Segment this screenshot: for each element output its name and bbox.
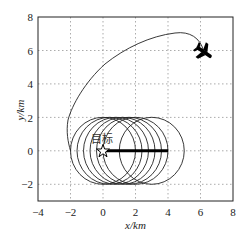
x-axis-label: x/km: [124, 219, 146, 231]
x-tick: −2: [65, 206, 77, 218]
y-tick: 4: [28, 78, 34, 90]
x-tick: −4: [32, 206, 44, 218]
y-tick: −2: [21, 178, 33, 190]
aircraft-icon: [191, 39, 217, 65]
y-axis-label: y/km: [14, 100, 26, 122]
y-tick: 8: [28, 11, 34, 23]
x-tick: 4: [165, 206, 171, 218]
target-annotation: 目标: [91, 132, 113, 146]
x-tick: 0: [100, 206, 106, 218]
y-tick: 2: [28, 112, 34, 124]
x-tick: 8: [230, 206, 236, 218]
chart: 目标 −4 −2 0 2 4 6 8 −2 0 2 4 6 8 x/km y/k…: [0, 0, 251, 243]
x-tick: 2: [133, 206, 139, 218]
x-tick-labels: −4 −2 0 2 4 6 8: [32, 206, 236, 218]
x-tick: 6: [198, 206, 204, 218]
y-tick: 0: [28, 145, 34, 157]
y-tick: 6: [28, 45, 34, 57]
